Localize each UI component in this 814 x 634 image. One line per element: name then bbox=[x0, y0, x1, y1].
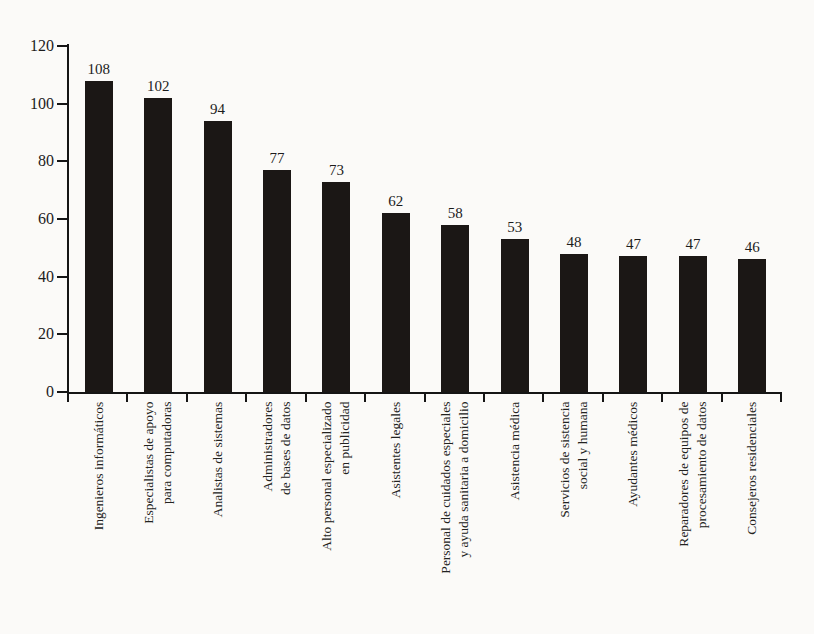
y-tick-label: 40 bbox=[0, 268, 54, 286]
y-tick-label: 60 bbox=[0, 210, 54, 228]
bar bbox=[322, 182, 350, 392]
x-category-label-slot: Reparadores de equipos de procesamiento … bbox=[663, 402, 722, 634]
bar-value-label: 46 bbox=[722, 238, 782, 256]
bar bbox=[144, 98, 172, 392]
x-category-label: Especialistas de apoyo para computadoras bbox=[141, 402, 176, 634]
y-tick bbox=[57, 45, 67, 47]
x-category-label-slot: Ayudantes médicos bbox=[604, 402, 663, 634]
x-category-label: Alto personal especializado en publicida… bbox=[319, 402, 354, 634]
x-category-label-slot: Analistas de sistemas bbox=[188, 402, 247, 634]
x-category-label: Reparadores de equipos de procesamiento … bbox=[675, 402, 710, 634]
x-tick bbox=[305, 394, 307, 402]
y-axis-line bbox=[67, 44, 69, 394]
x-category-label-slot: Ingenieros informáticos bbox=[69, 402, 128, 634]
x-category-label-slot: Servicios de sistencia social y humana bbox=[544, 402, 603, 634]
bar bbox=[85, 81, 113, 392]
x-tick bbox=[67, 394, 69, 402]
y-tick-label: 80 bbox=[0, 152, 54, 170]
x-tick bbox=[721, 394, 723, 402]
x-category-label: Ingenieros informáticos bbox=[90, 402, 108, 634]
x-tick bbox=[483, 394, 485, 402]
bar-value-label: 108 bbox=[69, 60, 129, 78]
y-tick bbox=[57, 103, 67, 105]
x-category-label: Analistas de sistemas bbox=[209, 402, 227, 634]
bar bbox=[263, 170, 291, 392]
x-tick bbox=[126, 394, 128, 402]
y-tick bbox=[57, 333, 67, 335]
y-tick-label: 120 bbox=[0, 37, 54, 55]
bar-value-label: 94 bbox=[188, 100, 248, 118]
x-category-label-slot: Asistencia médica bbox=[485, 402, 544, 634]
bar bbox=[738, 259, 766, 392]
bar bbox=[501, 239, 529, 392]
bar-value-label: 62 bbox=[366, 192, 426, 210]
scanned-page: 020406080100120108Ingenieros informático… bbox=[0, 0, 814, 634]
x-tick bbox=[661, 394, 663, 402]
x-tick bbox=[186, 394, 188, 402]
x-category-label: Administradores de bases de datos bbox=[259, 402, 294, 634]
y-tick-label: 100 bbox=[0, 95, 54, 113]
bar-chart: 020406080100120108Ingenieros informático… bbox=[0, 0, 814, 634]
bar bbox=[441, 225, 469, 392]
bar bbox=[679, 256, 707, 392]
y-tick bbox=[57, 218, 67, 220]
x-tick bbox=[364, 394, 366, 402]
x-category-label-slot: Consejeros residenciales bbox=[723, 402, 782, 634]
bar-value-label: 47 bbox=[663, 235, 723, 253]
bar-value-label: 58 bbox=[425, 204, 485, 222]
bar-value-label: 48 bbox=[544, 233, 604, 251]
bar-value-label: 77 bbox=[247, 149, 307, 167]
x-category-label: Servicios de sistencia social y humana bbox=[556, 402, 591, 634]
x-category-label-slot: Administradores de bases de datos bbox=[247, 402, 306, 634]
bar-value-label: 102 bbox=[128, 77, 188, 95]
bar-value-label: 73 bbox=[306, 161, 366, 179]
bar-value-label: 53 bbox=[485, 218, 545, 236]
x-category-label: Ayudantes médicos bbox=[625, 402, 643, 634]
x-category-label-slot: Personal de cuidados especiales y ayuda … bbox=[426, 402, 485, 634]
bar bbox=[619, 256, 647, 392]
y-tick-label: 20 bbox=[0, 325, 54, 343]
x-tick bbox=[542, 394, 544, 402]
x-tick bbox=[424, 394, 426, 402]
x-category-label-slot: Especialistas de apoyo para computadoras bbox=[128, 402, 187, 634]
bar-value-label: 47 bbox=[603, 235, 663, 253]
x-tick bbox=[780, 394, 782, 402]
x-category-label-slot: Asistentes legales bbox=[366, 402, 425, 634]
x-category-label: Personal de cuidados especiales y ayuda … bbox=[438, 402, 473, 634]
y-tick bbox=[57, 160, 67, 162]
y-tick bbox=[57, 276, 67, 278]
bar bbox=[382, 213, 410, 392]
bar bbox=[204, 121, 232, 392]
bar bbox=[560, 254, 588, 392]
x-category-label-slot: Alto personal especializado en publicida… bbox=[307, 402, 366, 634]
y-tick-label: 0 bbox=[0, 383, 54, 401]
x-category-label: Asistentes legales bbox=[387, 402, 405, 634]
x-tick bbox=[602, 394, 604, 402]
y-tick bbox=[57, 391, 67, 393]
x-category-label: Asistencia médica bbox=[506, 402, 524, 634]
x-tick bbox=[245, 394, 247, 402]
x-category-label: Consejeros residenciales bbox=[744, 402, 762, 634]
